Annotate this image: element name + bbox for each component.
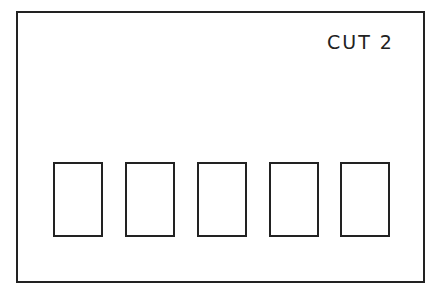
cut-label: CUT 2 bbox=[327, 31, 394, 53]
slot-2 bbox=[125, 162, 175, 237]
slot-4 bbox=[269, 162, 319, 237]
slot-1 bbox=[53, 162, 103, 237]
slot-5 bbox=[340, 162, 390, 237]
slot-3 bbox=[197, 162, 247, 237]
